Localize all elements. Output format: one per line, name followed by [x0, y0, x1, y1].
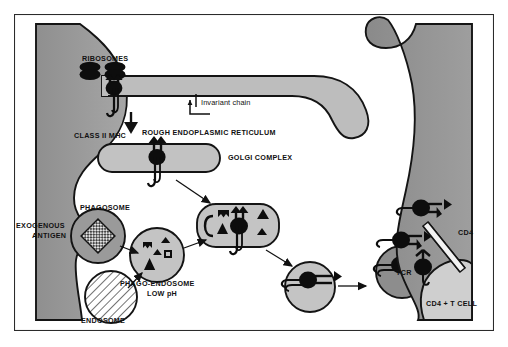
- ribosome-icon: [80, 62, 101, 80]
- label-tcr: TCR: [396, 269, 412, 277]
- miic-compartment: [197, 204, 279, 254]
- label-cd4: CD4: [458, 229, 473, 237]
- label-golgi-complex: GOLGI COMPLEX: [228, 154, 292, 162]
- phago-endosome: [130, 228, 184, 282]
- label-phagosome: PHAGOSOME: [80, 204, 130, 212]
- label-exogenous: EXOGENOUS: [16, 222, 65, 230]
- label-class-ii-mhc: CLASS II MHC: [74, 132, 126, 140]
- label-phago-endosome: PHAGO-ENDOSOME: [120, 280, 195, 288]
- phagosome: [71, 209, 125, 263]
- label-ribosomes: RIBOSOMES: [82, 55, 128, 63]
- label-invariant-chain: Invariant chain: [201, 99, 251, 108]
- label-low-ph: LOW pH: [147, 290, 177, 298]
- label-rough-er: ROUGH ENDOPLASMIC RETICULUM: [142, 129, 276, 137]
- mhc-body: [230, 218, 248, 235]
- figure-canvas: RIBOSOMES Invariant chain CLASS II MHC R…: [0, 0, 508, 347]
- label-endosome: ENDOSOME: [81, 317, 125, 325]
- diagram-figure: RIBOSOMES Invariant chain CLASS II MHC R…: [14, 14, 494, 331]
- label-cd4-t-cell: CD4 + T CELL: [426, 300, 477, 308]
- mhc-body: [148, 149, 165, 165]
- label-antigen: ANTIGEN: [32, 232, 66, 240]
